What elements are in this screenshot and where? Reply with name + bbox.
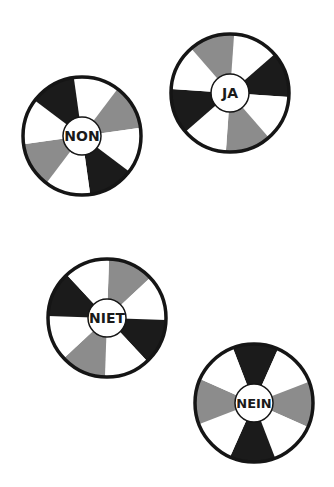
wheel-label: NEIN bbox=[236, 396, 271, 411]
wheels-canvas: NON JA NIET NEIN bbox=[0, 0, 334, 487]
wheel-non: NON bbox=[23, 77, 141, 195]
wheel-label: NON bbox=[64, 128, 99, 144]
wheel-label: JA bbox=[221, 85, 238, 101]
wheel-niet: NIET bbox=[48, 259, 166, 377]
wheel-nein: NEIN bbox=[195, 344, 313, 462]
wheel-ja: JA bbox=[171, 34, 289, 152]
wheel-label: NIET bbox=[89, 310, 125, 326]
